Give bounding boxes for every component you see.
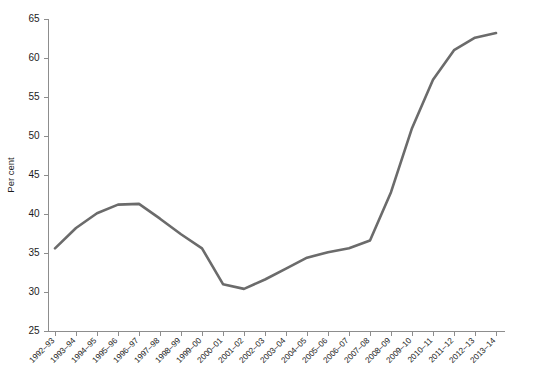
y-tick-label: 65 <box>28 13 40 24</box>
line-chart: 253035404550556065 1992–931993–941994–95… <box>0 0 537 378</box>
x-axis: 1992–931993–941994–951995–961996–971997–… <box>28 331 505 365</box>
y-tick-label: 40 <box>28 208 40 219</box>
y-tick-label: 25 <box>28 325 40 336</box>
series-line <box>55 33 496 289</box>
y-tick-label: 60 <box>28 52 40 63</box>
y-axis-title: Per cent <box>5 157 16 193</box>
y-tick-label: 35 <box>28 247 40 258</box>
y-tick-label: 30 <box>28 286 40 297</box>
y-axis: 253035404550556065 <box>28 13 48 336</box>
y-tick-label: 55 <box>28 91 40 102</box>
chart-container: 253035404550556065 1992–931993–941994–95… <box>0 0 537 378</box>
y-tick-label: 45 <box>28 169 40 180</box>
axis-titles: Per cent <box>5 157 16 193</box>
y-tick-label: 50 <box>28 130 40 141</box>
data-series <box>55 33 496 289</box>
